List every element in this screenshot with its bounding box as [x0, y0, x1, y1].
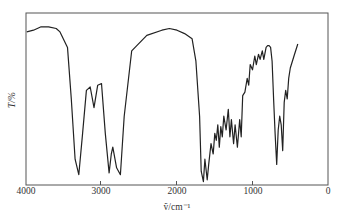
x-tick-label-1000: 1000: [244, 186, 263, 196]
y-axis-label: T/%: [7, 92, 17, 108]
spectrum-line: [27, 27, 298, 182]
x-tick-label-0: 0: [326, 186, 331, 196]
x-axis-ticks: [101, 181, 253, 185]
ir-spectrum-chart: 4000 3000 2000 1000 0 ṽ/cm⁻¹ T/%: [0, 0, 340, 224]
x-tick-label-3000: 3000: [92, 186, 111, 196]
x-axis-label: ṽ/cm⁻¹: [164, 201, 191, 212]
x-tick-label-2000: 2000: [168, 186, 187, 196]
x-tick-label-4000: 4000: [17, 186, 36, 196]
